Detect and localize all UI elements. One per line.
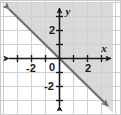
- y-tick-label-neg-two: -2: [44, 80, 54, 92]
- y-tick-label-pos-two: 2: [49, 24, 55, 36]
- y-axis-label: y: [64, 5, 71, 17]
- x-tick-label-neg-two: -2: [26, 62, 36, 74]
- x-tick-label-pos-two: 2: [85, 62, 91, 74]
- coordinate-plane-figure: -2 2 2 -2 0 y x: [0, 0, 121, 115]
- x-axis-label: x: [100, 42, 107, 54]
- graph-svg: -2 2 2 -2 0 y x: [0, 0, 121, 115]
- origin-label: 0: [49, 61, 55, 73]
